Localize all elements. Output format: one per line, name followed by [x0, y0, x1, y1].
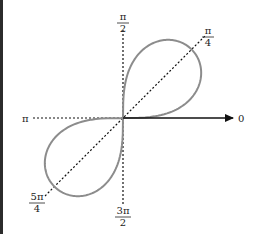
label-five-pi-over-4: 5π 4 [29, 191, 45, 214]
svg-text:2: 2 [120, 23, 126, 34]
svg-text:4: 4 [34, 203, 40, 214]
label-zero: 0 [238, 113, 244, 124]
label-pi-over-2: π 2 [117, 11, 129, 34]
polar-diagram: 0 π π 2 π 4 5π 4 3π 2 [0, 0, 267, 234]
svg-text:3π: 3π [117, 205, 130, 216]
svg-text:4: 4 [205, 37, 211, 48]
svg-text:5π: 5π [31, 191, 44, 202]
svg-text:π: π [205, 25, 212, 36]
label-three-pi-over-2: 3π 2 [115, 205, 131, 228]
svg-text:π: π [120, 11, 127, 22]
svg-text:2: 2 [120, 217, 126, 228]
axis-diagonal-dotted [45, 36, 205, 196]
label-pi: π [22, 113, 29, 124]
